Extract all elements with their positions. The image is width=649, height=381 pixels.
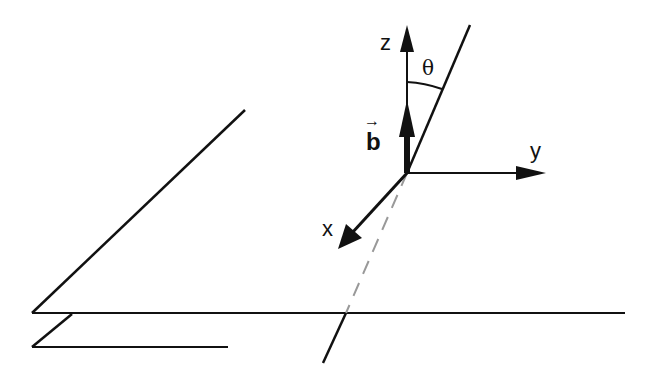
x-label: x [322,216,333,241]
tilted-line-hidden [346,173,407,313]
tilted-line-lower [323,313,346,363]
plane-thickness-edge [32,314,72,347]
plane-top-edge [32,110,245,313]
x-axis [352,173,407,233]
theta-label: θ [422,56,434,80]
y-label: y [530,138,541,163]
b-vector-arrow-icon: → [364,112,380,129]
z-label: z [380,30,391,55]
tilted-line-upper [407,25,470,173]
theta-arc [407,82,442,89]
b-label: b [366,128,381,155]
b-vector-arrowhead-icon [399,100,415,137]
diagram-canvas: z y x θ b → [0,0,649,381]
z-arrowhead-icon [400,25,414,52]
y-arrowhead-icon [516,166,546,180]
